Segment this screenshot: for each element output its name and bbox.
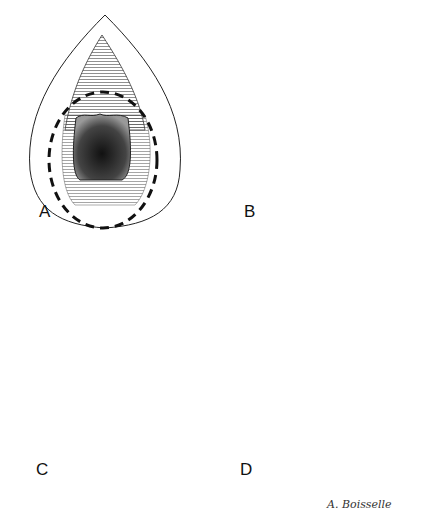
artist-signature: A. Boisselle: [327, 498, 392, 511]
panel-label-c: C: [36, 460, 48, 480]
panel-label-b: B: [244, 202, 255, 222]
panel-label-d: D: [240, 460, 252, 480]
illustration-canvas: [0, 0, 425, 525]
panel-label-a: A: [39, 202, 50, 222]
panel-a: [30, 15, 181, 228]
